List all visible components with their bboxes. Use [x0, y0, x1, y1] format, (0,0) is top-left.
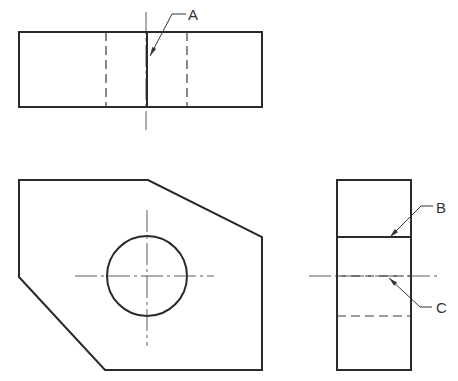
callout-label: B: [436, 199, 446, 216]
front-view-outline: [19, 180, 262, 370]
orthographic-drawing: ABC: [0, 0, 458, 381]
callout-c: C: [387, 276, 447, 316]
front-view: [19, 180, 262, 370]
callout-label: A: [188, 6, 198, 23]
callout-b: B: [388, 199, 446, 239]
callout-label: C: [436, 299, 447, 316]
top-view: [19, 12, 262, 130]
top-view-outline: [19, 32, 262, 107]
side-view-outline: [337, 180, 411, 370]
callout-labels: ABC: [148, 6, 447, 316]
arrowhead-icon: [148, 47, 156, 57]
